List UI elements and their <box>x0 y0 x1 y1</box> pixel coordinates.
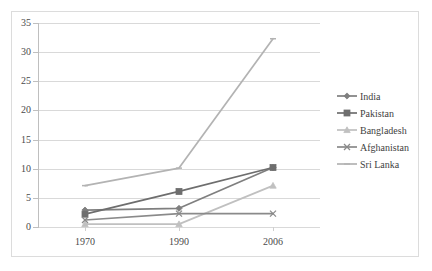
series-line-afghanistan <box>85 214 273 220</box>
series-marker-afghanistan <box>270 211 276 217</box>
series-line-pakistan <box>85 168 273 215</box>
series-marker-afghanistan <box>82 217 88 223</box>
x-axis-tick-label: 1990 <box>149 236 209 247</box>
legend-marker-icon <box>336 140 358 154</box>
legend-marker-icon <box>336 157 358 171</box>
chart-container: 05101520253035 197019902006 IndiaPakista… <box>0 0 432 271</box>
legend-item-bangladesh[interactable]: Bangladesh <box>336 122 430 138</box>
y-axis-tick-label: 25 <box>3 76 31 86</box>
legend-item-label: India <box>358 91 381 102</box>
legend-item-sri-lanka[interactable]: Sri Lanka <box>336 156 430 172</box>
legend-item-pakistan[interactable]: Pakistan <box>336 105 430 121</box>
y-axis-tick-label: 5 <box>3 193 31 203</box>
series-marker-bangladesh <box>176 221 182 227</box>
x-axis-tick <box>179 227 180 231</box>
x-axis-tick-label: 2006 <box>243 236 303 247</box>
x-axis-tick-label: 1970 <box>55 236 115 247</box>
gridline <box>38 110 320 111</box>
legend-item-india[interactable]: India <box>336 88 430 104</box>
series-line-india <box>85 168 273 211</box>
legend-item-label: Sri Lanka <box>358 159 399 170</box>
y-axis-tick-label: 35 <box>3 18 31 28</box>
legend-marker-icon <box>336 123 358 137</box>
legend-item-afghanistan[interactable]: Afghanistan <box>336 139 430 155</box>
y-axis-tick-labels: 05101520253035 <box>0 0 31 271</box>
x-axis-tick <box>85 227 86 231</box>
y-axis-line <box>38 23 39 228</box>
gridline <box>38 52 320 53</box>
gridline <box>38 198 320 199</box>
series-line-sri-lanka <box>85 39 273 186</box>
gridline <box>38 169 320 170</box>
gridline <box>38 140 320 141</box>
series-marker-pakistan <box>176 188 182 194</box>
series-marker-india <box>176 205 182 211</box>
y-axis-tick-label: 30 <box>3 47 31 57</box>
series-marker-pakistan <box>82 211 88 217</box>
x-axis-tick <box>273 227 274 231</box>
y-axis-tick-label: 0 <box>3 222 31 232</box>
y-axis-tick-label: 15 <box>3 135 31 145</box>
chart-legend: IndiaPakistanBangladeshAfghanistanSri La… <box>336 88 430 173</box>
series-line-bangladesh <box>85 186 273 225</box>
series-marker-afghanistan <box>176 211 182 217</box>
series-marker-bangladesh <box>82 221 88 227</box>
gridline <box>38 23 320 24</box>
y-axis-tick-label: 10 <box>3 164 31 174</box>
gridline <box>38 81 320 82</box>
series-marker-bangladesh <box>270 182 276 188</box>
legend-marker-icon <box>336 106 358 120</box>
legend-marker-icon <box>336 89 358 103</box>
series-marker-india <box>82 207 88 213</box>
legend-item-label: Afghanistan <box>358 142 409 153</box>
legend-item-label: Pakistan <box>358 108 394 119</box>
y-axis-tick-label: 20 <box>3 105 31 115</box>
legend-item-label: Bangladesh <box>358 125 407 136</box>
